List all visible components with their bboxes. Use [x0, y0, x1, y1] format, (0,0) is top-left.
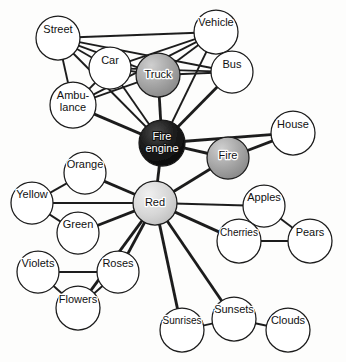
node-label-line: Apples: [247, 191, 281, 203]
network-link: [182, 147, 211, 154]
node-label-line: Truck: [144, 68, 172, 80]
node-label-line: engine: [145, 142, 178, 154]
network-link: [102, 180, 138, 195]
node-label-line: Bus: [223, 58, 242, 70]
node-label-vehicle: Vehicle: [198, 16, 233, 28]
node-label-line: Clouds: [271, 314, 306, 326]
node-label-fire: Fire: [219, 149, 238, 161]
node-label-line: Cherries: [220, 227, 258, 238]
node-label-violets: Violets: [22, 257, 55, 269]
node-label-cherries: Cherries: [220, 227, 258, 238]
network-link: [171, 167, 213, 193]
node-label-line: Red: [145, 196, 165, 208]
node-label-line: Street: [43, 23, 72, 35]
node-label-sunsets: Sunsets: [214, 303, 254, 315]
network-node-cherries[interactable]: [217, 219, 261, 263]
node-label-line: Roses: [102, 257, 134, 269]
node-label-line: Pears: [296, 226, 325, 238]
node-label-roses: Roses: [102, 257, 134, 269]
network-link: [48, 182, 70, 194]
node-label-ambulance: Ambu-lance: [57, 89, 90, 113]
node-label-truck: Truck: [144, 68, 172, 80]
network-link: [176, 85, 219, 129]
node-label-bus: Bus: [223, 58, 242, 70]
node-label-line: Vehicle: [198, 16, 233, 28]
node-label-pears: Pears: [296, 226, 325, 238]
node-label-line: Yellow: [16, 188, 47, 200]
node-label-red: Red: [145, 196, 165, 208]
node-label-house: House: [277, 118, 309, 130]
node-label-apples: Apples: [247, 191, 281, 203]
network-link: [245, 140, 275, 152]
node-label-orange: Orange: [67, 158, 104, 170]
network-link: [77, 33, 197, 38]
network-link: [172, 211, 221, 233]
node-label-green: Green: [63, 218, 94, 230]
node-label-line: Sunrises: [163, 315, 202, 326]
network-link: [159, 94, 161, 123]
node-label-clouds: Clouds: [271, 314, 306, 326]
semantic-network-figure: StreetVehicleCarTruckBusAmbu-lanceFireen…: [0, 0, 346, 362]
node-label-line: Fire: [153, 130, 172, 142]
node-label-line: Green: [63, 218, 94, 230]
node-label-street: Street: [43, 23, 72, 35]
node-label-line: Car: [101, 54, 119, 66]
node-label-line: Orange: [67, 158, 104, 170]
network-link: [95, 210, 138, 227]
network-link: [174, 204, 246, 206]
node-label-line: lance: [60, 101, 86, 113]
node-label-flowers: Flowers: [59, 293, 98, 305]
node-label-line: Fire: [219, 149, 238, 161]
node-label-line: House: [277, 118, 309, 130]
network-link: [177, 73, 214, 75]
node-label-line: Flowers: [59, 293, 98, 305]
node-label-yellow: Yellow: [16, 188, 47, 200]
node-label-car: Car: [101, 54, 119, 66]
network-link: [62, 57, 68, 86]
network-canvas: StreetVehicleCarTruckBusAmbu-lanceFireen…: [0, 0, 346, 362]
node-label-line: Ambu-: [57, 89, 90, 101]
node-label-sunrises: Sunrises: [163, 315, 202, 326]
node-label-line: Sunsets: [214, 303, 254, 315]
node-label-line: Violets: [22, 257, 55, 269]
